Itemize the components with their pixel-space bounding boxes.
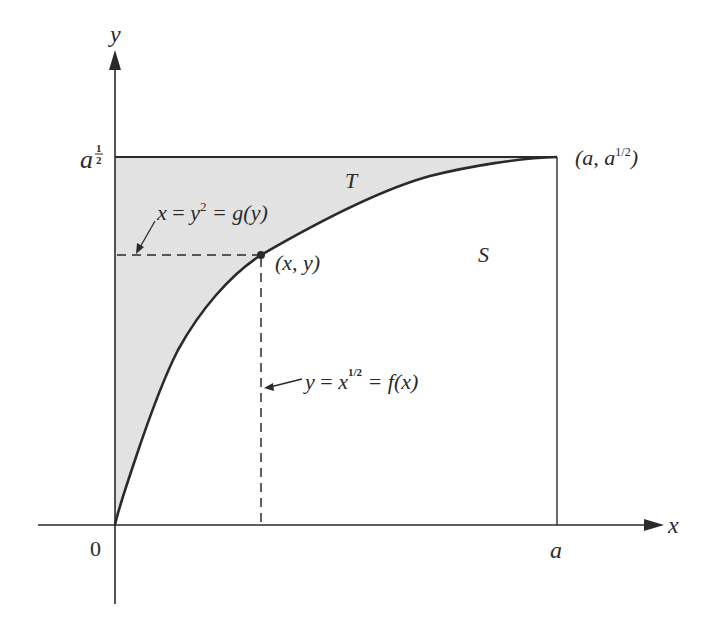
f-pointer-arrow-icon (264, 383, 274, 391)
y-tick-label-exp-den: 2 (96, 154, 102, 166)
f-eq-x: x (337, 369, 348, 394)
corner-label-close: ) (629, 145, 638, 170)
origin-label: 0 (90, 536, 101, 561)
x-tick-label-a: a (550, 537, 562, 563)
y-tick-label-exp-num: 1 (96, 142, 102, 154)
g-eq-y: y (188, 200, 200, 225)
point-label: (x, y) (275, 250, 320, 275)
f-pointer-line (270, 379, 302, 387)
corner-label-open: (a, a (575, 145, 615, 170)
f-eq-exp: 1/2 (348, 366, 363, 378)
corner-label: (a, a1/2) (575, 145, 638, 170)
region-T-label: T (345, 168, 359, 193)
y-axis-label: y (108, 21, 121, 47)
f-eq-rest: = f(x) (368, 369, 419, 394)
f-eq-equals: = (320, 369, 332, 394)
g-eq-square: 2 (200, 199, 207, 214)
x-axis-label: x (667, 512, 679, 538)
y-tick-label-base: a (80, 145, 93, 174)
g-eq-rest: = g(y) (212, 200, 268, 225)
g-eq-equals: = (172, 200, 184, 225)
x-axis-arrow-icon (644, 519, 664, 531)
f-eq-y: y (303, 369, 315, 394)
region-S-label: S (478, 242, 489, 267)
f-equation-label: y = x1/2 = f(x) (303, 356, 418, 394)
diagram-canvas: y x 0 a a 1 2 (a, a1/2) T S (x, y) x = y… (0, 0, 708, 632)
g-eq-x: x (156, 200, 167, 225)
y-axis-arrow-icon (109, 50, 121, 70)
corner-label-exp: 1/2 (615, 145, 630, 159)
point-marker (257, 251, 265, 259)
